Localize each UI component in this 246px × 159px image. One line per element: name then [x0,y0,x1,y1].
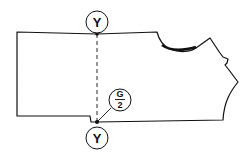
fraction-leader-line [98,108,111,121]
top-y-label: Y [93,15,102,30]
fraction-denominator: 2 [117,100,122,110]
bottom-y-label: Y [93,131,102,146]
fraction-numerator: G [116,89,123,99]
top-y-callout: Y [86,11,108,33]
neckline-highlight [162,45,196,50]
bottom-y-callout: Y [86,127,108,149]
pattern-diagram: Y G 2 Y [0,0,246,159]
g-half-callout: G 2 [109,89,131,111]
